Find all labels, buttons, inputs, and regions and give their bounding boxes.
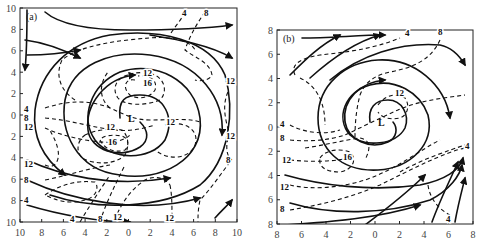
isotach-label: 16 [143,78,153,88]
isotach-line [300,78,325,125]
x-tick-label: 6 [299,229,304,240]
panel-label: (b) [283,33,295,45]
x-tick-label: 8 [275,229,280,240]
streamline [318,60,450,170]
y-tick-label: 8 [11,24,16,35]
isotach-label: 4 [24,195,29,205]
x-tick-label: 6 [191,227,196,238]
low-center-label: L [378,117,385,128]
isotach-line [45,130,58,166]
x-tick-label: 2 [397,229,402,240]
y-tick-label: 2 [268,97,273,108]
y-tick-label: 2 [11,88,16,99]
isotach-label: 8 [438,27,443,37]
streamline [27,180,200,205]
isotach-label: 4 [446,214,451,224]
y-tick-label: 8 [11,195,16,206]
isotach-label: 12 [280,182,290,192]
streamline [290,35,340,75]
y-tick-label: 0 [11,110,16,121]
y-tick-label: 0 [268,122,273,133]
x-tick-label: 4 [324,229,329,240]
streamline [365,175,425,225]
isotach-label: 12 [113,212,123,222]
x-tick-label: 2 [348,229,353,240]
y-tick-label: 6 [11,45,16,56]
isotach-line [45,102,200,122]
streamline [215,200,232,218]
isotach-label: 8 [98,214,103,224]
isotach-line [290,125,340,133]
isotach-label: 4 [182,8,187,18]
x-tick-label: 8 [471,229,476,240]
isotach-line [59,38,195,101]
x-tick-label: 6 [446,229,451,240]
isotach-label: 12 [226,76,236,86]
isotach-line [155,124,196,157]
x-tick-label: 0 [126,227,131,238]
x-tick-label: 4 [169,227,174,238]
x-tick-label: 8 [213,227,218,238]
figure-canvas: 1086420246810108642024681048121612161212… [0,0,481,245]
isotach-label: 4 [70,214,75,224]
x-tick-label: 0 [373,229,378,240]
y-tick-label: 2 [11,131,16,142]
y-tick-label: 10 [6,3,16,14]
x-tick-label: 10 [15,227,25,238]
isotach-label: 4 [405,28,410,38]
streamline [432,162,458,222]
x-tick-label: 4 [422,229,427,240]
isotach-label: 4 [280,119,285,129]
isotach-line [115,178,170,220]
panel-label: (a) [26,11,37,23]
isotach-label: 8 [280,204,285,214]
isotach-line [45,182,97,203]
isotach-label: 12 [166,117,176,127]
isotach-label: 16 [343,152,353,162]
isotach-label: 8 [226,155,231,165]
low-center-label: L [128,113,135,124]
streamline [285,158,463,188]
isotach-label: 8 [280,133,285,143]
isotach-label: 12 [226,131,236,141]
y-tick-label: 6 [268,194,273,205]
y-tick-label: 6 [11,174,16,185]
isotach-line [198,162,230,222]
y-tick-label: 4 [11,152,16,163]
isotach-label: 4 [465,141,470,151]
panel-b: 864202468864202468121612128844484(b)L [268,25,476,241]
x-tick-label: 2 [104,227,109,238]
y-tick-label: 4 [11,67,16,78]
isotach-label: 12 [395,88,405,98]
y-tick-label: 4 [268,73,273,84]
y-tick-label: 8 [268,25,273,36]
isotach-label: 12 [143,68,153,78]
x-tick-label: 6 [61,227,66,238]
x-tick-label: 4 [83,227,88,238]
isotach-label: 8 [204,8,209,18]
panel-a: 1086420246810108642024681048121612161212… [6,3,242,239]
isotach-label: 8 [24,175,29,185]
y-tick-label: 6 [268,49,273,60]
isotach-label: 12 [24,122,34,132]
isotach-line [378,95,408,119]
isotach-line [78,129,128,163]
streamline [455,178,465,222]
y-tick-label: 2 [268,146,273,157]
x-tick-label: 8 [39,227,44,238]
isotach-line [45,118,155,131]
y-tick-label: 10 [6,217,16,228]
isotach-label: 16 [108,137,118,147]
y-tick-label: 4 [268,170,273,181]
x-tick-label: 2 [148,227,153,238]
isotach-label: 12 [24,159,34,169]
y-tick-label: 8 [268,219,273,230]
x-tick-label: 10 [232,227,242,238]
isotach-label: 12 [106,122,116,132]
isotach-label: 12 [165,213,175,223]
isotach-label: 12 [282,155,292,165]
